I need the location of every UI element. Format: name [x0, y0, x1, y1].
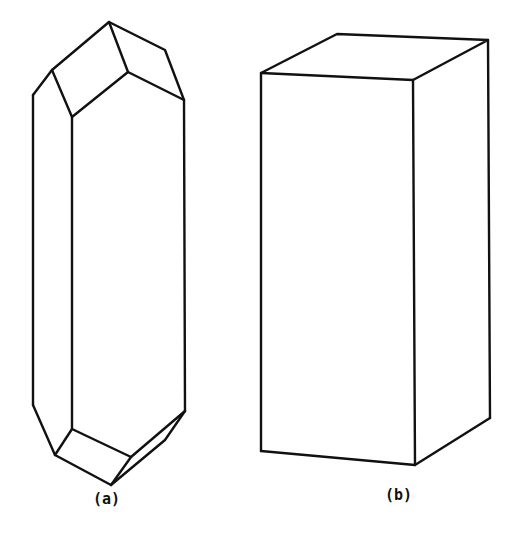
crystal-drawings [0, 0, 515, 538]
box-b [261, 34, 490, 465]
figure-label-a: (a) [93, 490, 120, 508]
figure-label-b: (b) [385, 486, 412, 504]
crystal-a [33, 22, 185, 485]
